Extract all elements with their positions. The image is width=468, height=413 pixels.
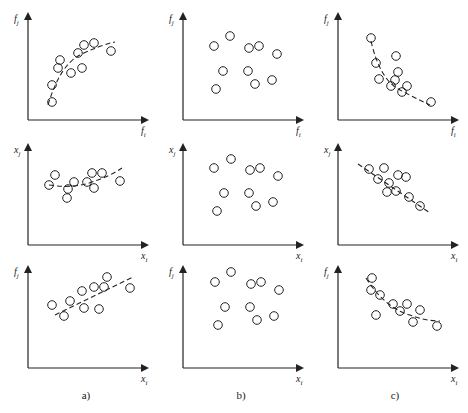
data-point — [396, 307, 405, 316]
data-point — [66, 297, 75, 306]
data-point — [100, 283, 109, 292]
y-axis-label: fj — [169, 13, 174, 27]
y-axis-label: fj — [324, 266, 329, 280]
data-point — [383, 188, 392, 197]
data-point — [391, 76, 400, 85]
data-point — [212, 85, 221, 94]
data-point — [273, 50, 282, 59]
data-point — [60, 312, 69, 321]
data-point — [51, 171, 60, 180]
data-point — [214, 321, 223, 330]
data-point — [103, 273, 112, 282]
data-point — [269, 198, 278, 207]
y-axis-label: fj — [14, 266, 19, 280]
x-axis-label: xi — [450, 250, 457, 264]
data-point — [56, 56, 65, 65]
data-point — [380, 164, 389, 173]
data-point — [368, 274, 377, 283]
data-point — [270, 312, 279, 321]
data-point — [126, 284, 135, 293]
data-point — [247, 280, 256, 289]
data-point — [256, 164, 265, 173]
scatter-panel-a3: fjxi — [14, 266, 147, 387]
data-point — [433, 322, 442, 331]
data-point — [244, 67, 253, 76]
data-point — [252, 202, 261, 211]
data-point — [403, 82, 412, 91]
y-axis-label: xj — [168, 144, 175, 158]
data-point — [255, 42, 264, 51]
data-point — [227, 268, 236, 277]
data-point — [83, 178, 92, 187]
y-axis-label: fj — [324, 13, 329, 27]
data-point — [402, 173, 411, 182]
x-axis-label: xi — [295, 250, 302, 264]
data-point — [78, 64, 87, 73]
data-point — [116, 177, 125, 186]
data-point — [80, 41, 89, 50]
data-point — [210, 164, 219, 173]
y-axis-label: xj — [323, 144, 330, 158]
x-axis-label: xi — [295, 373, 302, 387]
trend-line — [49, 168, 122, 186]
data-point — [394, 68, 403, 77]
data-point — [392, 52, 401, 61]
data-point — [220, 189, 229, 198]
data-point — [376, 291, 385, 300]
data-point — [367, 286, 376, 295]
data-point — [253, 316, 262, 325]
scatter-panel-b1: fjfi — [169, 13, 301, 139]
x-axis-label: fi — [451, 125, 456, 139]
data-point — [78, 287, 87, 296]
data-point — [245, 189, 254, 198]
data-point — [226, 32, 235, 41]
data-point — [219, 67, 228, 76]
data-point — [274, 172, 283, 181]
data-point — [372, 311, 381, 320]
data-point — [211, 278, 220, 287]
data-point — [95, 305, 104, 314]
scatter-panel-a1: fjfi — [14, 13, 146, 139]
data-point — [63, 194, 72, 203]
data-point — [375, 75, 384, 84]
data-point — [394, 171, 403, 180]
data-point — [210, 42, 219, 51]
data-point — [221, 303, 230, 312]
x-axis-label: xi — [450, 373, 457, 387]
data-point — [227, 155, 236, 164]
scatter-panel-b3: fjxi — [169, 266, 302, 387]
data-point — [409, 318, 418, 327]
data-point — [251, 80, 260, 89]
x-axis-label: fi — [296, 125, 301, 139]
scatter-panel-a2: xjxi — [13, 144, 147, 264]
data-point — [246, 303, 255, 312]
data-point — [67, 69, 76, 78]
data-point — [98, 169, 107, 178]
data-point — [416, 306, 425, 315]
data-point — [54, 64, 63, 73]
data-point — [398, 88, 407, 97]
data-point — [392, 187, 401, 196]
x-axis-label: xi — [140, 250, 147, 264]
y-axis-label: fj — [169, 266, 174, 280]
data-point — [372, 59, 381, 68]
data-point — [257, 278, 266, 287]
trend-line — [358, 164, 430, 213]
data-point — [246, 166, 255, 175]
data-point — [213, 207, 222, 216]
data-point — [389, 300, 398, 309]
data-point — [70, 178, 79, 187]
data-point — [403, 300, 412, 309]
scatter-panel-c3: fjxi — [324, 266, 457, 387]
scatter-panel-c1: fjfi — [324, 13, 456, 139]
y-axis-label: fj — [14, 13, 19, 27]
data-point — [427, 98, 436, 107]
data-point — [268, 76, 277, 85]
data-point — [80, 304, 89, 313]
scatter-plot-matrix-figure: fjfifjfifjfixjxixjxixjxifjxifjxifjxi a) … — [0, 0, 468, 413]
data-point — [107, 47, 116, 56]
data-point — [48, 81, 57, 90]
data-point — [88, 169, 97, 178]
caption-a: a) — [82, 389, 91, 402]
data-point — [275, 286, 284, 295]
